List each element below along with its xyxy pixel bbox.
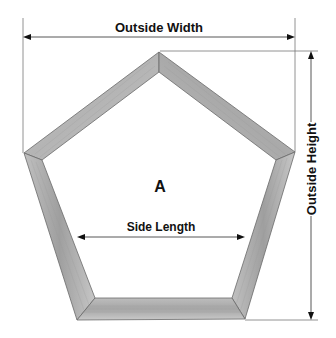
outside-width-dimension: Outside Width bbox=[23, 20, 295, 40]
outside-height-label: Outside Height bbox=[304, 122, 319, 215]
arrow-right-icon bbox=[237, 234, 245, 240]
frame-piece-top-left bbox=[24, 52, 159, 160]
pentagon-frame-diagram: Outside Width Outside Height Side Length… bbox=[0, 0, 336, 338]
arrow-up-icon bbox=[308, 51, 314, 59]
frame-piece-top-right bbox=[159, 52, 295, 160]
center-label: A bbox=[154, 178, 166, 195]
side-length-label: Side Length bbox=[127, 220, 196, 234]
outside-width-label: Outside Width bbox=[115, 20, 203, 35]
arrow-down-icon bbox=[308, 312, 314, 320]
arrow-left-icon bbox=[77, 234, 85, 240]
arrow-right-icon bbox=[287, 34, 295, 40]
frame-piece-bottom bbox=[77, 298, 245, 320]
arrow-left-icon bbox=[23, 34, 31, 40]
outside-height-dimension: Outside Height bbox=[303, 51, 319, 320]
side-length-dimension: Side Length bbox=[77, 220, 245, 240]
